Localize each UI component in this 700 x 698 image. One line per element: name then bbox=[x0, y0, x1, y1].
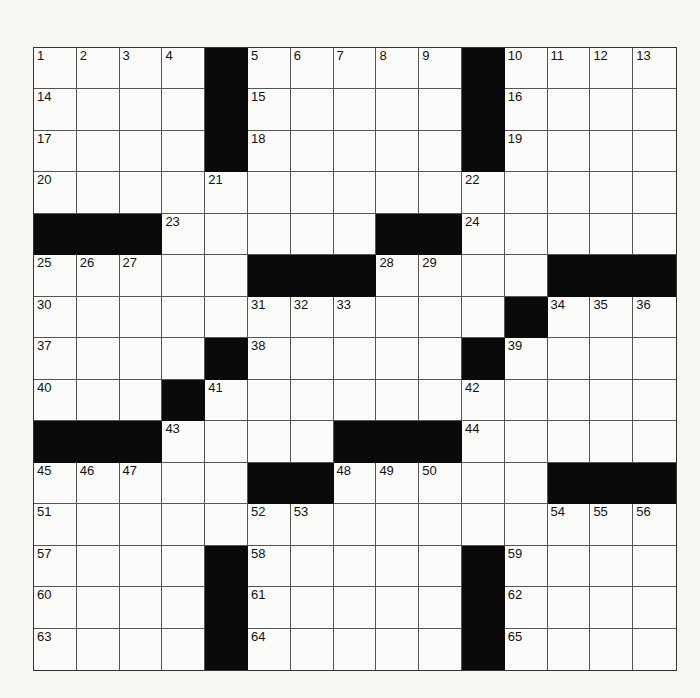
grid-cell[interactable] bbox=[291, 131, 334, 172]
grid-cell[interactable] bbox=[633, 172, 676, 213]
grid-cell[interactable] bbox=[376, 297, 419, 338]
grid-cell[interactable] bbox=[77, 546, 120, 587]
grid-cell[interactable]: 5 bbox=[248, 48, 291, 89]
grid-cell[interactable] bbox=[77, 587, 120, 628]
grid-cell[interactable]: 58 bbox=[248, 546, 291, 587]
grid-cell[interactable] bbox=[633, 89, 676, 130]
grid-cell[interactable]: 25 bbox=[34, 255, 77, 296]
grid-cell[interactable] bbox=[205, 255, 248, 296]
grid-cell[interactable] bbox=[590, 380, 633, 421]
grid-cell[interactable] bbox=[419, 504, 462, 545]
grid-cell[interactable]: 8 bbox=[376, 48, 419, 89]
grid-cell[interactable] bbox=[162, 172, 205, 213]
grid-cell[interactable] bbox=[548, 380, 591, 421]
grid-cell[interactable]: 17 bbox=[34, 131, 77, 172]
grid-cell[interactable] bbox=[590, 214, 633, 255]
grid-cell[interactable]: 42 bbox=[462, 380, 505, 421]
grid-cell[interactable] bbox=[462, 504, 505, 545]
grid-cell[interactable] bbox=[462, 463, 505, 504]
grid-cell[interactable] bbox=[334, 629, 377, 670]
grid-cell[interactable] bbox=[419, 587, 462, 628]
grid-cell[interactable] bbox=[548, 89, 591, 130]
grid-cell[interactable]: 20 bbox=[34, 172, 77, 213]
grid-cell[interactable]: 11 bbox=[548, 48, 591, 89]
grid-cell[interactable] bbox=[291, 421, 334, 462]
grid-cell[interactable] bbox=[77, 629, 120, 670]
grid-cell[interactable] bbox=[334, 131, 377, 172]
grid-cell[interactable] bbox=[291, 338, 334, 379]
grid-cell[interactable] bbox=[548, 546, 591, 587]
grid-cell[interactable] bbox=[205, 463, 248, 504]
grid-cell[interactable]: 53 bbox=[291, 504, 334, 545]
grid-cell[interactable] bbox=[376, 89, 419, 130]
grid-cell[interactable] bbox=[590, 587, 633, 628]
grid-cell[interactable] bbox=[291, 629, 334, 670]
grid-cell[interactable]: 19 bbox=[505, 131, 548, 172]
grid-cell[interactable] bbox=[205, 297, 248, 338]
grid-cell[interactable] bbox=[376, 172, 419, 213]
grid-cell[interactable] bbox=[162, 546, 205, 587]
grid-cell[interactable] bbox=[590, 546, 633, 587]
grid-cell[interactable] bbox=[376, 504, 419, 545]
grid-cell[interactable]: 40 bbox=[34, 380, 77, 421]
grid-cell[interactable]: 2 bbox=[77, 48, 120, 89]
grid-cell[interactable] bbox=[205, 504, 248, 545]
grid-cell[interactable]: 62 bbox=[505, 587, 548, 628]
grid-cell[interactable] bbox=[77, 131, 120, 172]
grid-cell[interactable]: 22 bbox=[462, 172, 505, 213]
grid-cell[interactable] bbox=[505, 463, 548, 504]
grid-cell[interactable] bbox=[120, 297, 163, 338]
grid-cell[interactable] bbox=[334, 172, 377, 213]
grid-cell[interactable] bbox=[633, 338, 676, 379]
grid-cell[interactable] bbox=[419, 89, 462, 130]
grid-cell[interactable]: 28 bbox=[376, 255, 419, 296]
grid-cell[interactable]: 43 bbox=[162, 421, 205, 462]
grid-cell[interactable] bbox=[120, 131, 163, 172]
grid-cell[interactable]: 41 bbox=[205, 380, 248, 421]
grid-cell[interactable]: 23 bbox=[162, 214, 205, 255]
grid-cell[interactable]: 33 bbox=[334, 297, 377, 338]
grid-cell[interactable] bbox=[248, 172, 291, 213]
grid-cell[interactable]: 13 bbox=[633, 48, 676, 89]
grid-cell[interactable]: 63 bbox=[34, 629, 77, 670]
grid-cell[interactable]: 45 bbox=[34, 463, 77, 504]
grid-cell[interactable] bbox=[462, 297, 505, 338]
grid-cell[interactable] bbox=[633, 587, 676, 628]
grid-cell[interactable]: 52 bbox=[248, 504, 291, 545]
grid-cell[interactable] bbox=[334, 546, 377, 587]
grid-cell[interactable] bbox=[633, 214, 676, 255]
grid-cell[interactable] bbox=[248, 380, 291, 421]
grid-cell[interactable] bbox=[548, 172, 591, 213]
grid-cell[interactable] bbox=[376, 587, 419, 628]
grid-cell[interactable]: 51 bbox=[34, 504, 77, 545]
grid-cell[interactable]: 10 bbox=[505, 48, 548, 89]
grid-cell[interactable] bbox=[419, 629, 462, 670]
grid-cell[interactable] bbox=[633, 546, 676, 587]
grid-cell[interactable] bbox=[633, 380, 676, 421]
grid-cell[interactable]: 1 bbox=[34, 48, 77, 89]
grid-cell[interactable] bbox=[419, 546, 462, 587]
grid-cell[interactable] bbox=[548, 338, 591, 379]
grid-cell[interactable] bbox=[590, 89, 633, 130]
grid-cell[interactable]: 61 bbox=[248, 587, 291, 628]
grid-cell[interactable] bbox=[376, 380, 419, 421]
grid-cell[interactable] bbox=[162, 338, 205, 379]
grid-cell[interactable] bbox=[376, 131, 419, 172]
grid-cell[interactable] bbox=[120, 504, 163, 545]
grid-cell[interactable] bbox=[633, 131, 676, 172]
grid-cell[interactable] bbox=[334, 504, 377, 545]
grid-cell[interactable] bbox=[590, 421, 633, 462]
grid-cell[interactable]: 38 bbox=[248, 338, 291, 379]
grid-cell[interactable] bbox=[462, 255, 505, 296]
grid-cell[interactable] bbox=[376, 629, 419, 670]
grid-cell[interactable] bbox=[120, 546, 163, 587]
grid-cell[interactable]: 16 bbox=[505, 89, 548, 130]
grid-cell[interactable]: 57 bbox=[34, 546, 77, 587]
grid-cell[interactable]: 14 bbox=[34, 89, 77, 130]
grid-cell[interactable] bbox=[505, 504, 548, 545]
grid-cell[interactable]: 39 bbox=[505, 338, 548, 379]
grid-cell[interactable] bbox=[633, 629, 676, 670]
grid-cell[interactable] bbox=[162, 89, 205, 130]
grid-cell[interactable]: 26 bbox=[77, 255, 120, 296]
grid-cell[interactable] bbox=[505, 255, 548, 296]
